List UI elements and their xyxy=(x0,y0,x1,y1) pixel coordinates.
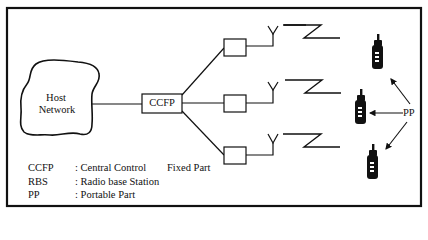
rbs-box-2 xyxy=(224,95,246,112)
host-network-label-line2: Network xyxy=(39,105,76,116)
legend-abbr: PP xyxy=(28,190,40,201)
portable-phone-icon xyxy=(372,34,383,69)
pp-label: PP xyxy=(403,108,415,119)
legend-desc: : Radio base Station xyxy=(75,177,159,188)
legend-desc: : Portable Part xyxy=(75,190,135,201)
legend-desc: : Central Control xyxy=(75,163,146,174)
portable-phone-icon xyxy=(367,144,378,179)
antenna-icon xyxy=(246,26,278,46)
legend-extra: Fixed Part xyxy=(167,163,210,174)
link-ccfp-rbs-3 xyxy=(182,111,224,155)
rbs-box-1 xyxy=(224,39,246,56)
legend-abbr: CCFP xyxy=(28,163,54,174)
portable-phone-icon xyxy=(355,89,366,124)
antenna-icon xyxy=(246,134,278,155)
host-network-label-line1: Host xyxy=(46,93,66,104)
arrow-icon xyxy=(386,122,407,149)
legend-abbr: RBS xyxy=(28,177,48,188)
rbs-box-3 xyxy=(224,147,246,164)
radio-link-icon xyxy=(283,134,340,147)
ccfp-label: CCFP xyxy=(149,98,175,109)
arrow-icon xyxy=(391,79,410,104)
radio-link-icon xyxy=(284,25,340,38)
radio-link-icon xyxy=(285,80,341,93)
antenna-icon xyxy=(246,82,278,103)
link-ccfp-rbs-1 xyxy=(182,48,224,95)
